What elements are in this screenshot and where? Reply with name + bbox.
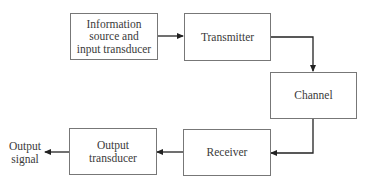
receiver-label: Receiver [207, 146, 248, 159]
output-signal-line-2: signal [4, 153, 46, 166]
channel-label: Channel [294, 89, 332, 102]
receiver-block: Receiver [183, 129, 271, 176]
information-source-block: Information source and input transducer [70, 13, 158, 60]
output-transducer-block: Output transducer [69, 128, 157, 175]
source-line-2: source and [77, 30, 151, 43]
output-transducer-line-2: transducer [89, 152, 137, 165]
source-line-1: Information [77, 18, 151, 31]
transmitter-label: Transmitter [201, 31, 254, 44]
source-line-3: input transducer [77, 43, 151, 56]
output-transducer-line-1: Output [89, 139, 137, 152]
arrow-channel-to-receiver [271, 118, 313, 153]
channel-block: Channel [270, 72, 357, 119]
transmitter-block: Transmitter [184, 13, 271, 61]
output-signal-label: Output signal [4, 140, 46, 165]
arrow-transmitter-to-channel [270, 37, 313, 71]
output-signal-line-1: Output [4, 140, 46, 153]
